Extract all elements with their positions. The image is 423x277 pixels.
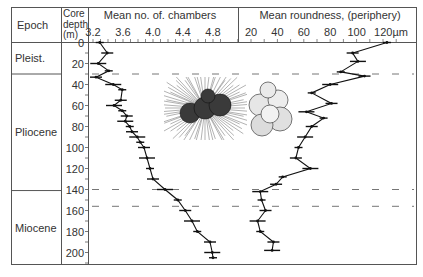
depth-tick-label: 80 <box>72 121 84 133</box>
epoch-label: Pliocene <box>15 126 57 138</box>
depth-tick-label: 20 <box>72 58 84 70</box>
horizon-dashed-lines <box>92 74 414 206</box>
chambers-tick-labels: 3.23.64.04.44.8 <box>85 26 220 42</box>
epoch-column: Pleist.PlioceneMiocene <box>11 52 61 233</box>
epoch-label: Pleist. <box>15 52 45 64</box>
chambers-axis-title: Mean no. of. chambers <box>104 9 217 21</box>
depth-tick-label: 140 <box>66 184 84 196</box>
depth-tick-label: 120 <box>66 163 84 175</box>
chambers-tick-label: 4.0 <box>145 26 160 38</box>
depth-tick-label: 160 <box>66 205 84 217</box>
series-line <box>96 43 213 258</box>
chambers-tick-label: 3.6 <box>115 26 130 38</box>
epoch-label: Miocene <box>15 222 57 234</box>
roundness-tick-label: 20 <box>245 26 257 38</box>
roundness-tick-labels: 20406080100120µm <box>238 26 408 42</box>
stratigraphic-chart: Epoch Core depth (m) Mean no. of. chambe… <box>0 0 423 277</box>
depth-axis: 020406080100120140160180200 <box>66 37 89 264</box>
epoch-header: Epoch <box>17 19 48 31</box>
chambers-tick-label: 4.4 <box>175 26 190 38</box>
roundness-tick-label: 40 <box>271 26 283 38</box>
depth-tick-label: 60 <box>72 100 84 112</box>
chambers-tick-label: 3.2 <box>85 26 100 38</box>
globular-foraminifera-illustration <box>249 82 292 136</box>
roundness-tick-label: 100 <box>347 26 365 38</box>
depth-tick-label: 180 <box>66 226 84 238</box>
depth-header: Core depth (m) <box>63 8 88 40</box>
spiny-foraminifera-illustration <box>163 76 248 141</box>
svg-text:Core: Core <box>63 8 85 19</box>
roundness-tick-label: 120µm <box>374 26 408 38</box>
depth-tick-label: 100 <box>66 142 84 154</box>
chambers-tick-label: 4.8 <box>205 26 220 38</box>
depth-tick-label: 40 <box>72 79 84 91</box>
depth-tick-label: 200 <box>66 247 84 259</box>
roundness-tick-label: 80 <box>324 26 336 38</box>
svg-text:(m): (m) <box>63 29 78 40</box>
depth-tick-label: 0 <box>78 37 84 49</box>
roundness-axis-title: Mean roundness, (periphery) <box>259 9 400 21</box>
roundness-tick-label: 60 <box>298 26 310 38</box>
